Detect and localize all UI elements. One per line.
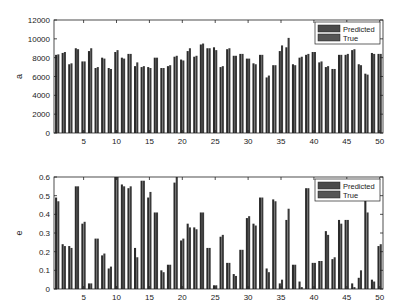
x-tick-label: 35	[277, 137, 286, 146]
bar-true	[156, 212, 158, 289]
bar-predicted	[272, 65, 274, 133]
bar-predicted	[68, 246, 70, 289]
bar-predicted	[292, 64, 294, 133]
x-tick-label: 15	[145, 293, 154, 302]
bar-predicted	[331, 259, 333, 289]
bar-predicted	[167, 265, 169, 289]
bar-predicted	[180, 60, 182, 133]
bar-true	[288, 209, 290, 289]
bar-predicted	[226, 49, 228, 133]
bar-true	[117, 50, 119, 133]
bar-predicted	[351, 50, 353, 133]
bar-predicted	[364, 199, 366, 289]
chart-a: 0200040006000800010000120005101520253035…	[0, 0, 404, 154]
bar-true	[202, 44, 204, 133]
bar-predicted	[127, 188, 129, 289]
x-tick-label: 10	[112, 137, 121, 146]
bar-predicted	[377, 54, 379, 133]
bar-true	[235, 276, 237, 289]
bar-predicted	[233, 274, 235, 289]
y-tick-label: 0.3	[39, 229, 51, 238]
y-tick-label: 0.5	[39, 192, 51, 201]
bar-true	[202, 212, 204, 289]
bar-true	[64, 52, 66, 133]
y-tick-label: 0	[46, 285, 51, 294]
bar-true	[130, 54, 132, 133]
bar-predicted	[285, 220, 287, 289]
bar-true	[281, 45, 283, 133]
bar-predicted	[127, 54, 129, 133]
bar-true	[103, 59, 105, 133]
bar-true	[268, 272, 270, 289]
bar-predicted	[220, 67, 222, 133]
bar-predicted	[239, 250, 241, 289]
bar-true	[97, 239, 99, 289]
bar-predicted	[173, 183, 175, 289]
bar-true	[367, 212, 369, 289]
bar-true	[261, 55, 263, 133]
bar-true	[380, 54, 382, 133]
bar-predicted	[75, 186, 77, 289]
bar-true	[169, 265, 171, 289]
x-tick-label: 25	[211, 137, 220, 146]
bar-true	[123, 59, 125, 133]
bar-predicted	[134, 66, 136, 133]
bar-predicted	[318, 62, 320, 133]
bar-predicted	[121, 58, 123, 133]
bar-true	[261, 198, 263, 289]
y-axis-label: a	[14, 74, 24, 79]
bar-predicted	[213, 285, 215, 289]
chart-a-svg: 0200040006000800010000120005101520253035…	[0, 0, 404, 154]
x-tick-label: 50	[375, 293, 384, 302]
y-axis-label: e	[14, 230, 24, 235]
bar-predicted	[68, 64, 70, 133]
bar-true	[288, 38, 290, 133]
bar-true	[255, 226, 257, 289]
bar-predicted	[121, 184, 123, 289]
bar-true	[195, 229, 197, 289]
bar-predicted	[299, 282, 301, 289]
bar-true	[97, 67, 99, 133]
bar-true	[209, 248, 211, 289]
y-tick-label: 0.6	[39, 173, 51, 182]
bar-true	[130, 186, 132, 289]
bar-true	[255, 64, 257, 133]
bar-predicted	[206, 248, 208, 289]
bar-predicted	[141, 181, 143, 289]
bar-true	[215, 50, 217, 133]
bar-predicted	[62, 53, 64, 133]
bar-true	[182, 60, 184, 133]
bar-true	[77, 186, 79, 289]
bar-predicted	[305, 55, 307, 133]
chart-e: 00.10.20.30.40.50.65101520253035404550eP…	[0, 154, 404, 308]
y-tick-label: 0.1	[39, 266, 51, 275]
bar-predicted	[193, 227, 195, 289]
x-tick-label: 5	[81, 137, 86, 146]
bar-true	[242, 54, 244, 133]
bar-true	[294, 65, 296, 133]
x-tick-label: 45	[342, 293, 351, 302]
x-tick-label: 50	[375, 137, 384, 146]
x-tick-label: 20	[178, 137, 187, 146]
bar-predicted	[88, 283, 90, 289]
bar-true	[57, 201, 59, 289]
x-tick-label: 35	[277, 293, 286, 302]
bar-predicted	[95, 239, 97, 289]
bar-predicted	[200, 212, 202, 289]
bar-true	[149, 192, 151, 289]
bar-predicted	[266, 268, 268, 289]
bar-predicted	[55, 198, 57, 289]
y-tick-label: 0.2	[39, 248, 51, 257]
bar-predicted	[160, 68, 162, 133]
bar-true	[123, 186, 125, 289]
bar-true	[301, 57, 303, 133]
x-tick-label: 30	[244, 137, 253, 146]
bar-predicted	[279, 283, 281, 289]
bar-true	[136, 62, 138, 133]
bar-true	[77, 49, 79, 133]
bar-predicted	[371, 280, 373, 289]
bar-predicted	[318, 261, 320, 289]
chart-e-svg: 00.10.20.30.40.50.65101520253035404550eP…	[0, 154, 404, 308]
bar-predicted	[358, 278, 360, 289]
bar-true	[176, 56, 178, 133]
